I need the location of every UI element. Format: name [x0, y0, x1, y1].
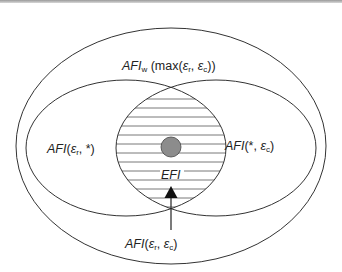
- outer-set-label: AFIw (max(εr, εc)): [122, 59, 216, 74]
- venn-diagram: [0, 0, 342, 272]
- point-marker: [161, 137, 181, 157]
- right-set-label: AFI(*, εc): [225, 139, 274, 154]
- pointer-label: AFI(εr, εc): [125, 237, 177, 252]
- left-set-label: AFI(εr, *): [47, 142, 95, 157]
- intersection-label: EFI: [161, 168, 180, 182]
